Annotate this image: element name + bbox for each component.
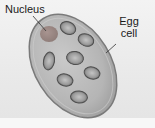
nucleus-label: Nucleus	[5, 4, 45, 15]
nucleus-shape	[40, 26, 58, 42]
egg-cell-label: Egg cell	[118, 15, 140, 39]
diagram-canvas: Nucleus Egg cell	[0, 0, 155, 128]
egg-cell-label-line2: cell	[118, 27, 140, 39]
egg-cell-label-line1: Egg	[118, 15, 140, 27]
